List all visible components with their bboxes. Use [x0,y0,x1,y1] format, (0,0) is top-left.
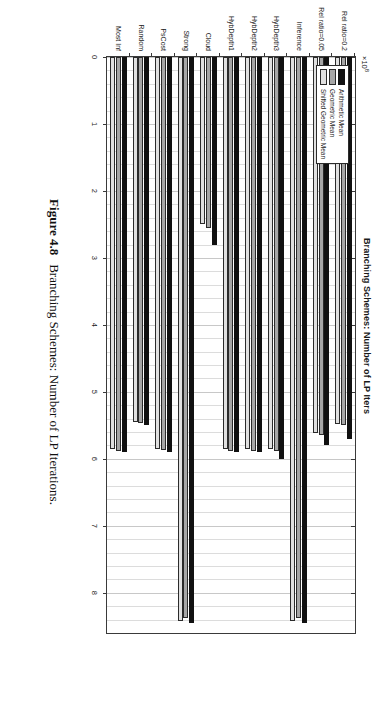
caption-number: Figure 4.8 [47,199,62,255]
y-axis-category-label: HybDepth1 [228,16,235,51]
bar-hybdepth1-arithmetic-mean [234,57,239,452]
gridline-minor [107,499,355,500]
x-axis-tick-label: 8 [90,591,99,595]
y-axis-category-label: Rel ratio=0.2 [340,11,347,51]
x-axis-tick-label: 6 [90,457,99,461]
y-axis-tick [309,53,310,57]
y-axis-tick [331,53,332,57]
y-axis-category-label: Rel ratio=0.05 [318,7,325,51]
x-axis-tick [103,593,107,594]
legend-label: Arithmetic Mean [338,89,345,136]
y-axis-category-label: Random [137,25,144,51]
legend-item: Geometric Mean [329,69,336,159]
legend-item: Shifted Geometric Mean [320,69,327,159]
y-axis-tick [219,53,220,57]
gridline-minor [107,486,355,487]
bar-hybdepth3-arithmetic-mean [279,57,284,459]
gridline-minor [107,606,355,607]
legend-swatch-icon [338,69,345,85]
chart-legend: Arithmetic MeanGeometric MeanShifted Geo… [316,65,349,164]
bar-cloud-arithmetic-mean [212,57,217,245]
y-axis-category-label: HybDepth2 [250,16,257,51]
bar-strong-arithmetic-mean [189,57,194,623]
bar-pscost-shifted-geometric-mean [155,57,160,449]
gridline-minor [107,566,355,567]
bar-pscost-arithmetic-mean [167,57,172,452]
gridline-minor [107,539,355,540]
bar-strong-geometric-mean [183,57,188,618]
bar-random-geometric-mean [138,57,143,423]
gridline-minor [107,512,355,513]
bar-hybdepth3-geometric-mean [274,57,279,451]
x-axis-tick-top [351,593,355,594]
figure-chart: Branching Schemes: Number of LP Iters ×1… [72,16,372,636]
y-axis-category-label: Strong [182,30,189,51]
bar-hybdepth2-arithmetic-mean [257,57,262,452]
x-axis-tick [103,325,107,326]
x-axis-tick-top [351,526,355,527]
plot-area: Arithmetic MeanGeometric MeanShifted Geo… [106,56,356,634]
gridline-major [107,593,355,594]
y-axis-tick [174,53,175,57]
y-axis-category-label: Cloud [205,33,212,51]
x-axis-tick [103,57,107,58]
rotated-page: Branching Schemes: Number of LP Iters ×1… [0,0,384,704]
y-axis-tick [264,53,265,57]
bar-hybdepth1-shifted-geometric-mean [223,57,228,449]
y-axis-category-label: PsCost [160,28,167,51]
x-axis-tick-label: 4 [90,323,99,327]
y-axis-tick [151,53,152,57]
y-axis-tick [354,53,355,57]
x-axis-tick [103,526,107,527]
bar-hybdepth1-geometric-mean [229,57,234,451]
bar-hybdepth2-geometric-mean [251,57,256,451]
axis-exponent-label: ×108 [360,56,371,72]
x-axis-tick-label: 3 [90,256,99,260]
legend-label: Geometric Mean [329,89,336,137]
bar-random-shifted-geometric-mean [133,57,138,422]
bar-strong-shifted-geometric-mean [178,57,183,621]
y-axis-tick [286,53,287,57]
x-axis-tick-label: 7 [90,524,99,528]
chart-title: Branching Schemes: Number of LP Iters [362,16,372,636]
y-axis-tick [241,53,242,57]
bar-pscost-geometric-mean [161,57,166,450]
bar-random-arithmetic-mean [144,57,149,425]
y-axis-tick [129,53,130,57]
gridline-major [107,459,355,460]
x-axis-tick [103,392,107,393]
bar-inference-geometric-mean [296,57,301,618]
gridline-major [107,526,355,527]
y-axis-category-label: HybDepth3 [273,16,280,51]
exponent-power: 8 [364,69,370,72]
gridline-minor [107,472,355,473]
y-axis-category-label: Inference [295,22,302,51]
bar-cloud-shifted-geometric-mean [200,57,205,224]
legend-swatch-icon [329,69,336,85]
gridline-minor [107,553,355,554]
x-axis-tick-top [351,459,355,460]
y-axis-tick [196,53,197,57]
legend-label: Shifted Geometric Mean [320,89,327,159]
bar-hybdepth2-shifted-geometric-mean [245,57,250,449]
exponent-mantissa: ×10 [360,56,369,69]
x-axis-tick-label: 2 [90,189,99,193]
figure-caption: Figure 4.8Branching Schemes: Number of L… [46,0,62,704]
y-axis-category-label: Most Inf [115,26,122,51]
x-axis-tick-label: 1 [90,122,99,126]
bar-inference-shifted-geometric-mean [290,57,295,621]
x-axis-tick-label: 5 [90,390,99,394]
bar-most-inf-arithmetic-mean [122,57,127,452]
x-axis-tick [103,459,107,460]
x-axis-tick-label: 0 [90,55,99,59]
x-axis-tick [103,191,107,192]
gridline-minor [107,579,355,580]
bar-hybdepth3-shifted-geometric-mean [268,57,273,449]
x-axis-tick [103,258,107,259]
legend-item: Arithmetic Mean [338,69,345,159]
document-sheet: Branching Schemes: Number of LP Iters ×1… [0,0,384,704]
gridline-minor [107,620,355,621]
bar-most-inf-shifted-geometric-mean [110,57,115,449]
x-axis-tick [103,124,107,125]
bar-inference-arithmetic-mean [302,57,307,623]
